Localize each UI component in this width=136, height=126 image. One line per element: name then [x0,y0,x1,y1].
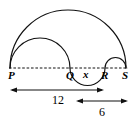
unknown-length-label-x: x [82,68,89,80]
point-label-s: S [122,69,128,81]
dimension-6-label: 6 [99,105,105,119]
arrow-head-right-6-icon [121,98,128,103]
geometry-figure: P Q R S x 12 6 [0,0,136,126]
dimension-6-arrow [76,98,128,103]
dimension-12-label: 12 [52,93,64,107]
arc-r-s-small-icon [105,58,126,69]
arc-p-q-middle-icon [10,38,70,68]
point-label-q: Q [66,69,74,81]
arrow-head-left-12-icon [10,87,17,92]
arrow-head-left-6-icon [76,98,83,103]
arc-p-s-outer-icon [10,10,126,68]
point-label-r: R [100,69,108,81]
point-label-p: P [8,69,15,81]
diagram-canvas: P Q R S x 12 6 [0,0,136,126]
dimension-12-arrow [10,87,104,92]
arrow-head-right-12-icon [97,87,104,92]
